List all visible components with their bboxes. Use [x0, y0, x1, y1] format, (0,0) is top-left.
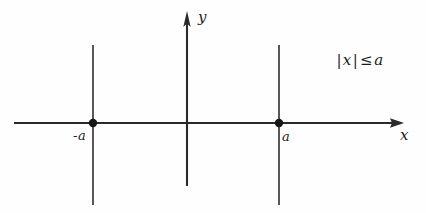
figure-canvas: y x -a a |x|≤a	[0, 0, 426, 213]
inequality-bound: a	[374, 51, 384, 69]
tick-label-pos-a: a	[282, 130, 290, 143]
abs-bar-left: |	[336, 51, 343, 69]
inequality-annotation: |x|≤a	[336, 53, 384, 68]
coordinate-diagram-svg	[0, 0, 426, 213]
point-marker-neg-a	[89, 119, 97, 127]
inequality-operator-icon: ≤	[359, 51, 374, 69]
y-axis-label: y	[198, 10, 206, 25]
abs-variable: x	[343, 51, 352, 69]
tick-label-neg-a: -a	[73, 129, 86, 142]
x-axis-label: x	[400, 128, 408, 143]
abs-bar-right: |	[352, 51, 359, 69]
point-marker-pos-a	[275, 119, 283, 127]
